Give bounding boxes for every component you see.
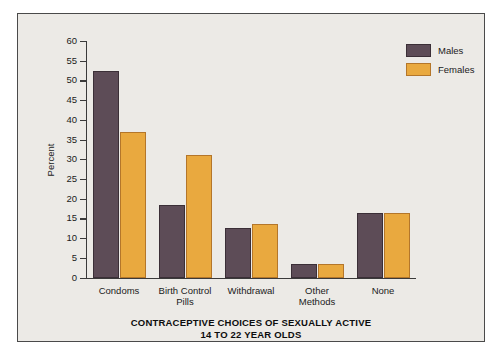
bar-males <box>93 71 119 278</box>
y-tick-label: 15 <box>66 214 77 224</box>
y-tick-label: 5 <box>72 253 77 263</box>
legend-label: Females <box>438 64 474 75</box>
bar-females <box>186 155 212 277</box>
x-axis-category-label-line: Other <box>299 285 335 297</box>
x-axis-category-label-line: Birth Control <box>159 285 212 297</box>
bar-group: Birth ControlPills <box>152 40 218 278</box>
bar-females <box>252 224 278 277</box>
bar-females <box>318 264 344 278</box>
bar-males <box>225 228 251 277</box>
x-axis-category-label: Condoms <box>99 285 140 297</box>
chart-figure: Percent 051015202530354045505560 Condoms… <box>0 0 502 355</box>
x-axis-category-label-line: Withdrawal <box>228 285 275 297</box>
y-axis-title: Percent <box>45 144 56 177</box>
x-axis-category-label-line: None <box>372 285 395 297</box>
y-tick-label: 0 <box>72 273 77 283</box>
x-axis-category-label-line: Pills <box>159 296 212 308</box>
bar-group: OtherMethods <box>284 40 350 278</box>
y-tick-label: 20 <box>66 194 77 204</box>
x-axis-line <box>86 278 416 279</box>
bar-group: Withdrawal <box>218 40 284 278</box>
x-axis-category-label: OtherMethods <box>299 285 335 308</box>
y-tick-label: 60 <box>66 36 77 46</box>
y-tick-mark <box>80 278 86 279</box>
x-axis-category-label: Birth ControlPills <box>159 285 212 308</box>
y-tick-label: 25 <box>66 174 77 184</box>
bar-males <box>291 264 317 278</box>
y-tick-label: 35 <box>66 135 77 145</box>
chart-title-line-2: 14 TO 22 YEAR OLDS <box>18 329 484 341</box>
bar-group: Condoms <box>86 40 152 278</box>
y-tick-label: 55 <box>66 56 77 66</box>
legend-item: Males <box>406 44 492 57</box>
chart-title: CONTRACEPTIVE CHOICES OF SEXUALLY ACTIVE… <box>18 317 484 341</box>
x-axis-category-label-line: Methods <box>299 296 335 308</box>
x-axis-category-label: Withdrawal <box>228 285 275 297</box>
y-tick-label: 50 <box>66 76 77 86</box>
x-axis-category-label: None <box>372 285 395 297</box>
legend-label: Males <box>438 45 463 56</box>
plot-area: Percent 051015202530354045505560 Condoms… <box>86 41 416 279</box>
legend-swatch-females <box>406 63 431 76</box>
bar-males <box>159 205 185 278</box>
chart-title-line-1: CONTRACEPTIVE CHOICES OF SEXUALLY ACTIVE <box>18 317 484 329</box>
y-tick-label: 10 <box>66 233 77 243</box>
y-tick-label: 40 <box>66 115 77 125</box>
bar-males <box>357 213 383 278</box>
legend-item: Females <box>406 63 492 76</box>
y-tick-label: 30 <box>66 155 77 165</box>
x-axis-category-label-line: Condoms <box>99 285 140 297</box>
bar-females <box>120 132 146 278</box>
chart-panel: Percent 051015202530354045505560 Condoms… <box>17 13 485 342</box>
chart-legend: MalesFemales <box>406 44 492 82</box>
legend-swatch-males <box>406 44 431 57</box>
y-tick-label: 45 <box>66 95 77 105</box>
bar-females <box>384 213 410 278</box>
